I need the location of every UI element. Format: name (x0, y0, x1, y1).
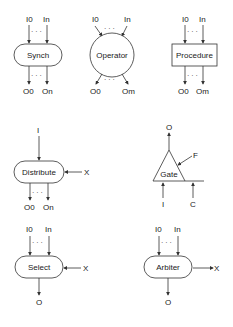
synch-input-ellipsis: · · · (31, 28, 42, 35)
procedure-output-om: Om (196, 87, 209, 96)
operator-output-om: Om (122, 87, 135, 96)
operator-label: Operator (96, 51, 128, 60)
gate-input-c: C (190, 200, 196, 209)
distribute-node: I Distribute X · · · O0 On (14, 126, 90, 212)
distribute-control-x: X (84, 168, 90, 177)
procedure-label: Procedure (176, 51, 213, 60)
procedure-input-i0: I0 (182, 15, 189, 24)
distribute-output-on: On (43, 203, 54, 212)
procedure-node: I0 In · · · Procedure · · · O0 Om (172, 15, 217, 96)
procedure-input-ellipsis: · · · (187, 28, 198, 35)
select-node: I0 In · · · Select X O (15, 225, 89, 307)
gate-control-f: F (193, 151, 198, 160)
select-control-x: X (83, 264, 89, 273)
operator-input-in: In (124, 15, 131, 24)
operator-output-ellipsis: · · · (104, 76, 115, 83)
select-input-ellipsis: · · · (32, 239, 43, 246)
diagram-canvas: I0 In · · · Synch · · · O0 On I0 In · · … (0, 0, 233, 327)
arbiter-control-x: X (214, 264, 220, 273)
gate-label: Gate (160, 170, 178, 179)
distribute-label: Distribute (22, 168, 56, 177)
arbiter-label: Arbiter (156, 263, 180, 272)
select-input-in: In (45, 225, 52, 234)
select-input-i0: I0 (26, 225, 33, 234)
select-output-o: O (36, 298, 42, 307)
arbiter-input-ellipsis: · · · (161, 239, 172, 246)
procedure-output-ellipsis: · · · (187, 72, 198, 79)
distribute-output-ellipsis: · · · (32, 189, 43, 196)
distribute-input-i: I (37, 126, 39, 135)
arbiter-node: I0 In · · · Arbiter X O (144, 225, 220, 307)
operator-input-i0: I0 (92, 15, 99, 24)
operator-input-ellipsis: · · · (104, 25, 115, 32)
procedure-output-o0: O0 (178, 87, 189, 96)
arbiter-output-o: O (165, 298, 171, 307)
synch-output-o0: O0 (23, 87, 34, 96)
operator-output-o0: O0 (90, 87, 101, 96)
operator-node: I0 In · · · Operator · · · O0 Om (90, 15, 135, 96)
synch-output-on: On (42, 87, 53, 96)
arbiter-input-in: In (174, 225, 181, 234)
distribute-output-o0: O0 (24, 203, 35, 212)
select-label: Select (28, 263, 51, 272)
procedure-input-in: In (199, 15, 206, 24)
arbiter-input-i0: I0 (155, 225, 162, 234)
gate-node: O Gate F I C (153, 123, 204, 209)
synch-input-in: In (43, 15, 50, 24)
synch-output-ellipsis: · · · (31, 72, 42, 79)
synch-input-i0: I0 (26, 15, 33, 24)
gate-input-i: I (162, 200, 164, 209)
synch-label: Synch (27, 51, 49, 60)
synch-node: I0 In · · · Synch · · · O0 On (14, 15, 62, 96)
gate-output-o: O (166, 123, 172, 132)
